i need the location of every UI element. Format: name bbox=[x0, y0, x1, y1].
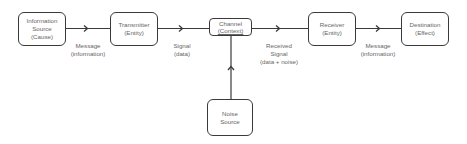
edge-label-message: Message (information) bbox=[71, 42, 106, 58]
node-destination: Destination (Effect) bbox=[401, 12, 449, 46]
edge-label-received-signal: Received Signal (data + noise) bbox=[260, 42, 298, 66]
node-transmitter: Transmitter (Entity) bbox=[110, 12, 158, 46]
node-label: Information bbox=[27, 17, 58, 25]
node-label: Channel bbox=[219, 20, 242, 27]
node-label: Transmitter bbox=[118, 21, 149, 29]
node-receiver: Receiver (Entity) bbox=[308, 12, 356, 46]
node-label: Source bbox=[220, 118, 240, 126]
node-channel: Channel (Context) bbox=[209, 18, 252, 36]
node-label: (Entity) bbox=[322, 29, 342, 37]
node-label: Destination bbox=[410, 21, 441, 29]
node-noise-source: Noise Source bbox=[207, 99, 253, 136]
node-label: Noise bbox=[222, 110, 238, 118]
node-information-source: Information Source (Cause) bbox=[18, 12, 66, 46]
node-label: Source bbox=[32, 25, 52, 33]
communication-diagram: Information Source (Cause) Transmitter (… bbox=[0, 0, 467, 144]
node-label: Receiver bbox=[320, 21, 344, 29]
node-label: (Context) bbox=[218, 27, 243, 34]
node-label: (Cause) bbox=[31, 33, 53, 41]
edge-label-signal: Signal (data) bbox=[173, 42, 190, 58]
node-label: (Effect) bbox=[415, 29, 435, 37]
node-label: (Entity) bbox=[124, 29, 144, 37]
edge-label-message-2: Message (information) bbox=[361, 42, 396, 58]
